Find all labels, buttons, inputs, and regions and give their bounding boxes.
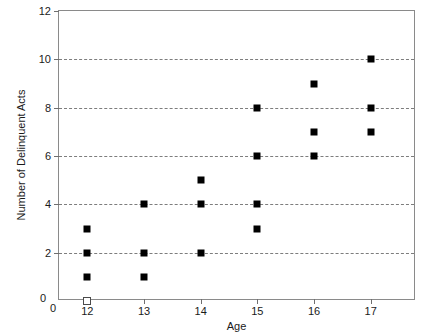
x-tick-label-12: 12 xyxy=(81,305,93,317)
gridline-y-2 xyxy=(59,253,414,254)
data-point xyxy=(254,201,261,208)
y-axis-origin-label: 0 xyxy=(40,292,46,304)
data-point xyxy=(311,80,318,87)
y-tick-label-12: 12 xyxy=(39,5,51,17)
data-point xyxy=(254,153,261,160)
y-tick-4 xyxy=(54,204,59,205)
data-point xyxy=(311,153,318,160)
x-tick-label-17: 17 xyxy=(365,305,377,317)
y-tick-label-2: 2 xyxy=(45,247,51,259)
y-tick-6 xyxy=(54,156,59,157)
data-point xyxy=(367,128,374,135)
scatter-plot-figure: Number of Delinquent Acts 0 0 24681012 1… xyxy=(0,0,426,336)
y-tick-label-4: 4 xyxy=(45,198,51,210)
gridline-y-6 xyxy=(59,156,414,157)
x-tick-label-14: 14 xyxy=(195,305,207,317)
data-point xyxy=(311,128,318,135)
y-axis-title: Number of Delinquent Acts xyxy=(14,10,28,300)
x-tick-label-15: 15 xyxy=(251,305,263,317)
data-point xyxy=(84,249,91,256)
data-point xyxy=(197,177,204,184)
plot-area: 24681012 121314151617 xyxy=(58,10,415,300)
x-tick-label-13: 13 xyxy=(138,305,150,317)
y-tick-label-8: 8 xyxy=(45,102,51,114)
data-point xyxy=(367,56,374,63)
y-tick-8 xyxy=(54,108,59,109)
x-tick-13 xyxy=(144,299,145,304)
x-tick-16 xyxy=(314,299,315,304)
data-point xyxy=(141,201,148,208)
data-point xyxy=(197,249,204,256)
y-tick-2 xyxy=(54,253,59,254)
gridline-y-10 xyxy=(59,59,414,60)
gridline-y-4 xyxy=(59,204,414,205)
x-axis-title: Age xyxy=(58,320,415,332)
x-axis-origin-label: 0 xyxy=(50,302,56,314)
data-point xyxy=(84,273,91,280)
y-tick-10 xyxy=(54,59,59,60)
data-point xyxy=(84,225,91,232)
data-point xyxy=(197,201,204,208)
data-point xyxy=(254,225,261,232)
y-tick-12 xyxy=(54,11,59,12)
data-point xyxy=(83,297,91,305)
x-tick-label-16: 16 xyxy=(308,305,320,317)
x-tick-14 xyxy=(201,299,202,304)
y-tick-label-6: 6 xyxy=(45,150,51,162)
x-tick-17 xyxy=(371,299,372,304)
data-point xyxy=(254,104,261,111)
gridline-y-8 xyxy=(59,108,414,109)
y-tick-label-10: 10 xyxy=(39,53,51,65)
data-point xyxy=(141,273,148,280)
data-point xyxy=(141,249,148,256)
x-tick-15 xyxy=(257,299,258,304)
data-point xyxy=(367,104,374,111)
